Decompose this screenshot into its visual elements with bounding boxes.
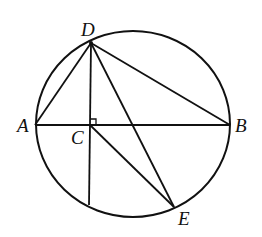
segment-df — [89, 43, 91, 205]
geometry-diagram: A B C D E — [0, 0, 262, 237]
label-d: D — [80, 19, 95, 40]
segments — [35, 43, 230, 207]
point-d-dot — [89, 41, 93, 45]
label-a: A — [15, 115, 29, 136]
label-e: E — [177, 208, 190, 229]
segment-da — [35, 43, 91, 125]
segment-ce — [90, 125, 174, 207]
label-b: B — [235, 115, 247, 136]
label-c: C — [71, 127, 84, 148]
